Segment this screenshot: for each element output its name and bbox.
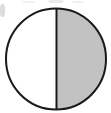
- scan-artifact: [72, 1, 84, 3]
- scan-artifact: [0, 4, 5, 17]
- fraction-diagram: [0, 0, 111, 113]
- scan-artifact: [48, 0, 64, 3]
- half-shaded-circle-graphic: [0, 0, 111, 113]
- unshaded-left-half: [6, 9, 56, 110]
- scan-artifact: [22, 1, 35, 3]
- shaded-right-half: [56, 9, 106, 110]
